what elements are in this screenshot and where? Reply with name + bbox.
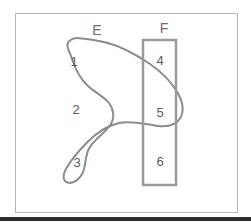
figure-frame [16, 14, 238, 213]
region-label-3: 3 [73, 155, 80, 170]
region-label-6: 6 [156, 154, 163, 169]
figure-canvas: E F 1 2 3 4 5 6 [0, 0, 251, 224]
region-label-4: 4 [156, 53, 163, 68]
region-label-1: 1 [70, 54, 77, 69]
region-label-5: 5 [156, 105, 163, 120]
region-label-2: 2 [72, 102, 79, 117]
bottom-divider-bar [0, 217, 251, 221]
set-diagram: E F 1 2 3 4 5 6 [0, 0, 251, 224]
set-label-f: F [160, 20, 169, 36]
set-label-e: E [92, 22, 101, 38]
